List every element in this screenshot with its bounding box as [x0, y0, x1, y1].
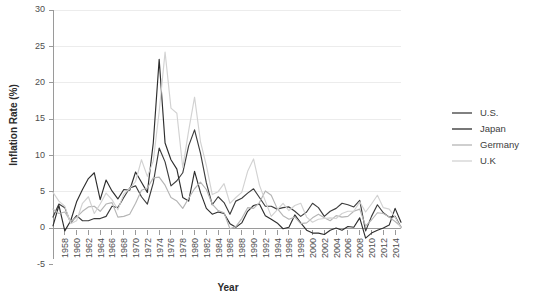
- x-tick-label: 1998: [296, 238, 306, 258]
- y-tick-label: 30: [35, 4, 45, 14]
- inflation-rate-line-chart: -5051015202530 1958196019621964196619681…: [0, 0, 542, 304]
- x-tick-label: 1976: [166, 238, 176, 258]
- x-tick-label: 2004: [332, 238, 342, 258]
- legend-label-germany[interactable]: Germany: [480, 139, 519, 150]
- legend-label-japan[interactable]: Japan: [480, 123, 506, 134]
- x-tick-label: 1992: [261, 238, 271, 258]
- x-tick-label: 2002: [320, 238, 330, 258]
- x-tick-label: 1980: [190, 238, 200, 258]
- x-tick-label: 1974: [155, 238, 165, 258]
- y-tick-label: -5: [37, 259, 45, 269]
- y-tick-label: 25: [35, 41, 45, 51]
- x-tick-label: 1968: [119, 238, 129, 258]
- x-tick-label: 1996: [284, 238, 294, 258]
- y-axis-title: Inflation Rate (%): [8, 84, 19, 166]
- y-tick-label: 10: [35, 150, 45, 160]
- legend-label-uk[interactable]: U.K: [480, 155, 497, 166]
- x-tick-label: 1970: [131, 238, 141, 258]
- x-tick-label: 1994: [273, 238, 283, 258]
- legend: U.S.JapanGermanyU.K: [452, 107, 519, 166]
- x-tick-label: 2000: [308, 238, 318, 258]
- x-tick-label: 2006: [343, 238, 353, 258]
- x-tick-label: 1990: [249, 238, 259, 258]
- x-tick-label: 1958: [60, 238, 70, 258]
- legend-label-us[interactable]: U.S.: [480, 107, 498, 118]
- y-tick-label: 20: [35, 77, 45, 87]
- x-tick-label: 2008: [355, 238, 365, 258]
- x-tick-label: 1984: [214, 238, 224, 258]
- series-line-uk: [53, 52, 401, 228]
- y-tick-label: 0: [40, 222, 45, 232]
- chart-canvas: -5051015202530 1958196019621964196619681…: [0, 0, 542, 304]
- x-tick-label: 2012: [379, 238, 389, 258]
- x-tick-label: 1986: [225, 238, 235, 258]
- x-tick-label: 1964: [96, 238, 106, 258]
- y-tick-label: 5: [40, 186, 45, 196]
- x-tick-label: 1962: [84, 238, 94, 258]
- series-lines-group: [53, 52, 401, 238]
- y-tick-label: 15: [35, 113, 45, 123]
- x-axis: 1958196019621964196619681970197219741976…: [53, 228, 401, 258]
- x-axis-title: Year: [217, 282, 238, 293]
- x-tick-label: 1988: [237, 238, 247, 258]
- y-tick-group: -5051015202530: [35, 4, 53, 268]
- x-tick-group: 1958196019621964196619681970197219741976…: [60, 230, 400, 258]
- x-tick-label: 2014: [391, 238, 401, 258]
- x-tick-label: 2010: [367, 238, 377, 258]
- y-axis: -5051015202530: [35, 4, 53, 268]
- x-tick-label: 1982: [202, 238, 212, 258]
- x-tick-label: 1978: [178, 238, 188, 258]
- x-tick-label: 1966: [107, 238, 117, 258]
- x-tick-label: 1972: [143, 238, 153, 258]
- x-tick-label: 1960: [72, 238, 82, 258]
